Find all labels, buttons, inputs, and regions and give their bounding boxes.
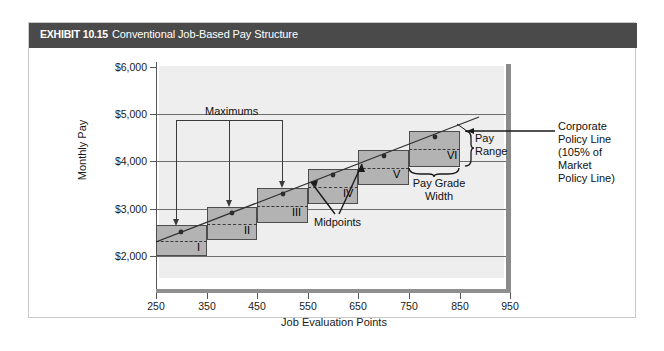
y-tick-6000 bbox=[150, 67, 156, 68]
corporate-policy-line-1: Corporate bbox=[558, 120, 615, 133]
pay-grade-width-line-1: Pay Grade bbox=[407, 177, 471, 190]
x-label-550: 550 bbox=[288, 300, 328, 312]
y-tick-3000 bbox=[150, 209, 156, 210]
annotation-pay-grade-width: Pay Grade Width bbox=[407, 177, 471, 203]
grade-label-i: I bbox=[197, 241, 200, 253]
x-tick-350 bbox=[207, 293, 208, 299]
x-tick-250 bbox=[156, 293, 157, 299]
midpoints-leader-lines bbox=[309, 156, 419, 221]
corporate-policy-line-5: Policy Line) bbox=[558, 172, 615, 185]
x-label-650: 650 bbox=[338, 300, 378, 312]
x-label-750: 750 bbox=[389, 300, 429, 312]
annotation-corporate-policy-line: Corporate Policy Line (105% of Market Po… bbox=[558, 120, 615, 185]
y-axis-line bbox=[156, 62, 157, 292]
x-axis-bar bbox=[156, 289, 511, 293]
y-label-5000: $5,000 bbox=[29, 108, 147, 120]
corporate-policy-leader bbox=[453, 120, 563, 138]
x-tick-750 bbox=[409, 293, 410, 299]
midpoint-line-i bbox=[156, 241, 207, 242]
gridline-2000 bbox=[156, 256, 511, 257]
y-label-3000: $3,000 bbox=[29, 203, 147, 215]
pay-range-line-2: Range bbox=[475, 145, 507, 158]
grade-label-vi: VI bbox=[447, 149, 457, 161]
x-tick-650 bbox=[358, 293, 359, 299]
y-axis-labels: $6,000 $5,000 $4,000 $3,000 $2,000 bbox=[29, 48, 147, 288]
y-tick-5000 bbox=[150, 114, 156, 115]
x-label-350: 350 bbox=[187, 300, 227, 312]
pay-grade-width-line-2: Width bbox=[407, 190, 471, 203]
exhibit-header-bar: EXHIBIT 10.15 Conventional Job-Based Pay… bbox=[29, 23, 637, 48]
x-label-450: 450 bbox=[237, 300, 277, 312]
corporate-policy-line-4: Market bbox=[558, 159, 615, 172]
y-label-6000: $6,000 bbox=[29, 61, 147, 73]
x-tick-850 bbox=[460, 293, 461, 299]
corporate-policy-line-3: (105% of bbox=[558, 146, 615, 159]
y-axis-title: Monthly Pay bbox=[76, 90, 88, 210]
annotation-maximums: Maximums bbox=[205, 105, 258, 117]
exhibit-number: EXHIBIT 10.15 bbox=[40, 28, 108, 40]
plot-right-border bbox=[506, 64, 511, 293]
x-label-950: 950 bbox=[490, 300, 530, 312]
exhibit-figure: EXHIBIT 10.15 Conventional Job-Based Pay… bbox=[28, 22, 636, 318]
x-tick-550 bbox=[308, 293, 309, 299]
y-tick-2000 bbox=[150, 256, 156, 257]
x-tick-950 bbox=[510, 293, 511, 299]
x-axis-title: Job Evaluation Points bbox=[159, 316, 509, 328]
y-label-2000: $2,000 bbox=[29, 250, 147, 262]
y-tick-4000 bbox=[150, 161, 156, 162]
chart-plot-area: $6,000 $5,000 $4,000 $3,000 $2,000 Month… bbox=[29, 48, 637, 318]
y-label-4000: $4,000 bbox=[29, 155, 147, 167]
maximums-arrowheads bbox=[169, 118, 294, 233]
midpoint-line-vi bbox=[409, 149, 460, 150]
exhibit-title: Conventional Job-Based Pay Structure bbox=[112, 28, 298, 40]
x-tick-450 bbox=[257, 293, 258, 299]
x-label-250: 250 bbox=[136, 300, 176, 312]
x-label-850: 850 bbox=[440, 300, 480, 312]
corporate-policy-line-2: Policy Line bbox=[558, 133, 615, 146]
